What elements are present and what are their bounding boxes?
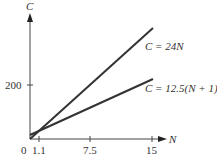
x-tick-label-7.5: 7.5 [83, 144, 97, 156]
x-axis-arrow-icon [158, 136, 167, 142]
x-tick-label-1.1: 1.1 [32, 144, 46, 156]
x-tick-label-0: 0 [21, 144, 27, 156]
line1-annotation: C = 24N [145, 40, 184, 52]
x-axis-label: N [168, 133, 177, 145]
y-tick-label-200: 200 [5, 79, 22, 91]
chart: C N 200 0 1.1 7.5 15 C = 24N C = 12.5(N … [0, 0, 217, 158]
x-tick-label-15: 15 [146, 144, 158, 156]
line-c-24n [30, 28, 153, 139]
y-axis-arrow-icon [27, 13, 33, 22]
line-c-12-5-n-plus-1 [30, 79, 153, 135]
line2-annotation: C = 12.5(N + 1) [145, 82, 217, 95]
y-axis-label: C [26, 0, 34, 12]
